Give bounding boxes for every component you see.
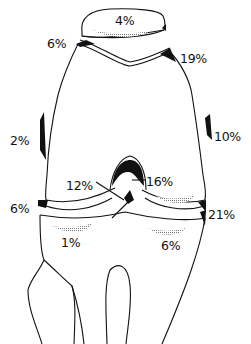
- label-patella: 4%: [115, 15, 134, 28]
- femur-outline: [46, 44, 206, 200]
- label-femur-medial: 2%: [10, 135, 29, 148]
- label-tibia-right: 6%: [161, 240, 180, 253]
- knee-diagram: [0, 0, 251, 344]
- label-femur-lateral: 10%: [214, 131, 241, 144]
- label-joint-line-left: 6%: [10, 203, 29, 216]
- label-tibia-left: 1%: [61, 237, 80, 250]
- label-intercondylar-right: 16%: [146, 176, 173, 189]
- label-patella-upper-right: 19%: [180, 53, 207, 66]
- label-intercondylar-left: 12%: [66, 180, 93, 193]
- label-patella-upper-left: 6%: [47, 38, 66, 51]
- label-joint-line-right: 21%: [208, 209, 235, 222]
- tibia-outline: [28, 215, 44, 344]
